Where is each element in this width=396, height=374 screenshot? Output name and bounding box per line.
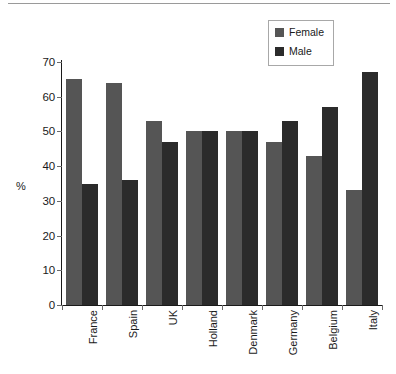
bar-belgium-female [306, 156, 322, 305]
bar-group [226, 62, 258, 305]
legend-label-male: Male [289, 46, 312, 57]
x-tick-mark [382, 305, 383, 310]
x-label-holland: Holland [207, 310, 219, 347]
x-label-spain: Spain [127, 310, 139, 338]
top-divider-rule [8, 3, 390, 4]
bar-italy-male [362, 72, 378, 305]
x-label-germany: Germany [287, 310, 299, 355]
x-label-italy: Italy [367, 310, 379, 330]
y-axis-title: % [16, 180, 26, 192]
plot-area: 010203040506070 [62, 62, 382, 305]
x-axis-category-labels: FranceSpainUKHollandDenmarkGermanyBelgiu… [62, 308, 382, 372]
bar-spain-female [106, 83, 122, 305]
bar-group [106, 62, 138, 305]
y-tick-mark [57, 236, 62, 237]
y-tick-label: 70 [43, 56, 55, 68]
bar-germany-male [282, 121, 298, 305]
chart-legend: Female Male [268, 20, 334, 66]
legend-item-male: Male [275, 46, 312, 57]
bar-belgium-male [322, 107, 338, 305]
legend-label-female: Female [289, 27, 324, 38]
bar-denmark-male [242, 131, 258, 305]
y-tick-mark [57, 62, 62, 63]
bar-italy-female [346, 190, 362, 305]
bar-france-female [66, 79, 82, 305]
y-tick-label: 50 [43, 125, 55, 137]
y-tick-mark [57, 270, 62, 271]
bar-germany-female [266, 142, 282, 305]
y-tick-mark [57, 131, 62, 132]
bar-uk-female [146, 121, 162, 305]
y-tick-label: 20 [43, 230, 55, 242]
y-tick-mark [57, 97, 62, 98]
legend-item-female: Female [275, 27, 324, 38]
x-label-denmark: Denmark [247, 310, 259, 355]
bar-denmark-female [226, 131, 242, 305]
bar-group [266, 62, 298, 305]
x-label-france: France [87, 310, 99, 344]
bar-spain-male [122, 180, 138, 305]
y-tick-label: 30 [43, 195, 55, 207]
bar-group [346, 62, 378, 305]
bar-group [186, 62, 218, 305]
bar-group [146, 62, 178, 305]
bar-uk-male [162, 142, 178, 305]
bar-group [66, 62, 98, 305]
legend-swatch-male [275, 47, 284, 56]
y-tick-label: 0 [49, 299, 55, 311]
x-label-uk: UK [167, 310, 179, 325]
y-tick-mark [57, 201, 62, 202]
y-tick-label: 60 [43, 91, 55, 103]
y-tick-label: 10 [43, 264, 55, 276]
legend-swatch-female [275, 28, 284, 37]
y-tick-label: 40 [43, 160, 55, 172]
bar-holland-female [186, 131, 202, 305]
bar-group [306, 62, 338, 305]
bar-france-male [82, 184, 98, 306]
x-label-belgium: Belgium [327, 310, 339, 350]
bar-holland-male [202, 131, 218, 305]
y-tick-mark [57, 166, 62, 167]
